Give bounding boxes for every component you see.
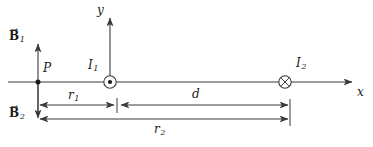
field-b2-vector-body: →B — [9, 107, 19, 119]
field-b1-label: →B1 — [9, 30, 25, 43]
diagram-canvas — [0, 0, 373, 147]
distance-r1-subscript: 1 — [74, 93, 80, 103]
field-b1-subscript: 1 — [19, 34, 25, 44]
point-p-marker — [36, 80, 41, 85]
field-b2-subscript: 2 — [19, 111, 25, 121]
distance-d-label: d — [192, 88, 200, 100]
distance-d-symbol: d — [192, 87, 200, 101]
current-2-label: I2 — [296, 57, 306, 70]
distance-r1-label: r1 — [68, 89, 79, 102]
current-1-subscript: 1 — [93, 63, 99, 73]
y-axis-label: y — [97, 4, 104, 16]
field-b2-label: →B2 — [9, 107, 25, 120]
distance-r2-symbol: r — [154, 122, 160, 136]
vector-arrow-icon: → — [10, 25, 18, 34]
distance-r2-label: r2 — [154, 123, 165, 136]
current-1-out-of-page-dot-icon — [108, 80, 112, 84]
current-2-subscript: 2 — [301, 61, 307, 71]
vector-arrow-icon: → — [10, 102, 18, 111]
distance-r1-symbol: r — [68, 88, 74, 102]
physics-diagram: y x P I1 I2 r1 d r2 →B1 →B2 — [0, 0, 373, 147]
distance-r2-subscript: 2 — [160, 127, 166, 137]
x-axis-label: x — [357, 86, 364, 98]
point-p-label: P — [43, 62, 51, 74]
field-b1-vector-body: →B — [9, 30, 19, 42]
current-1-label: I1 — [88, 59, 98, 72]
